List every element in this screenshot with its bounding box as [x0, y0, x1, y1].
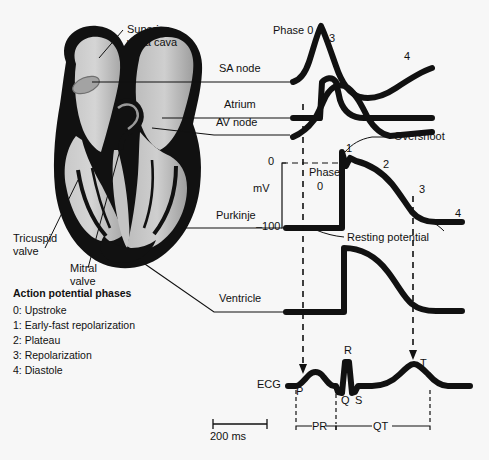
axis-tick-zero-mv: 0: [268, 155, 274, 168]
legend-title: Action potential phases: [13, 286, 135, 301]
label-ecg-p-wave: P: [296, 385, 303, 398]
legend-item-3: 3: Repolarization: [13, 348, 135, 363]
scale-bar: [213, 419, 267, 429]
axis-unit-mv: mV: [253, 182, 270, 195]
label-superior-vena-cava: Superiorvena cava: [127, 23, 177, 49]
label-ecg-r-wave: R: [344, 344, 352, 357]
label-sa-phase-3: 3: [329, 32, 335, 45]
sa-node-trace: [293, 26, 432, 98]
label-av-node: AV node: [216, 116, 257, 129]
label-sa-phase-0: Phase 0: [273, 24, 313, 37]
tricuspid-line1: Tricuspid: [13, 232, 57, 244]
legend-action-potential-phases: Action potential phases 0: Upstroke 1: E…: [13, 286, 135, 377]
arrow-to-t-wave: [409, 350, 417, 360]
purkinje-mv-axis: [282, 163, 286, 228]
axis-tick-minus-100-mv: –100: [256, 220, 280, 233]
label-mitral-valve: Mitralvalve: [70, 262, 97, 288]
tricuspid-line2: valve: [13, 245, 39, 257]
label-purkinje-phase-0-line2: 0: [317, 180, 323, 193]
label-overshoot: Overshoot: [394, 130, 445, 143]
arrow-to-p-wave: [299, 364, 307, 374]
heart-illustration: [54, 26, 202, 268]
label-qt-interval: QT: [373, 420, 388, 433]
label-ecg: ECG: [257, 378, 281, 391]
label-purkinje-phase-0-line1: Phase: [309, 166, 340, 179]
svc-line1: Superior: [127, 23, 169, 35]
label-pr-interval: PR: [312, 420, 327, 433]
label-atrium: Atrium: [224, 98, 256, 111]
label-purkinje-phase-4: 4: [455, 207, 461, 220]
mitral-line1: Mitral: [70, 262, 97, 274]
label-purkinje-phase-2: 2: [383, 158, 389, 171]
ecg-trace: [288, 362, 470, 393]
label-ventricle: Ventricle: [219, 292, 261, 305]
label-ecg-s-wave: S: [355, 394, 362, 407]
label-ecg-t-wave: T: [420, 357, 427, 370]
legend-item-2: 2: Plateau: [13, 333, 135, 348]
label-tricuspid-valve: Tricuspidvalve: [13, 232, 57, 258]
leader-ventricle: [142, 262, 290, 312]
label-ecg-q-wave: Q: [341, 394, 350, 407]
label-scale-bar: 200 ms: [210, 430, 246, 443]
label-sa-node: SA node: [219, 62, 261, 75]
label-purkinje-phase-1: 1: [346, 142, 352, 155]
resting-potential-leader: [316, 230, 344, 237]
label-purkinje-phase-3: 3: [419, 183, 425, 196]
legend-item-0: 0: Upstroke: [13, 303, 135, 318]
label-resting-potential: Resting potential: [347, 231, 429, 244]
label-purkinje: Purkinje: [216, 209, 256, 222]
svc-line2: vena cava: [127, 36, 177, 48]
label-sa-phase-4: 4: [404, 50, 410, 63]
legend-item-1: 1: Early-fast repolarization: [13, 318, 135, 333]
legend-item-4: 4: Diastole: [13, 363, 135, 378]
figure-cardiac-action-potentials: Superiorvena cava Tricuspidvalve Mitralv…: [0, 0, 489, 460]
ventricle-trace: [286, 248, 462, 312]
